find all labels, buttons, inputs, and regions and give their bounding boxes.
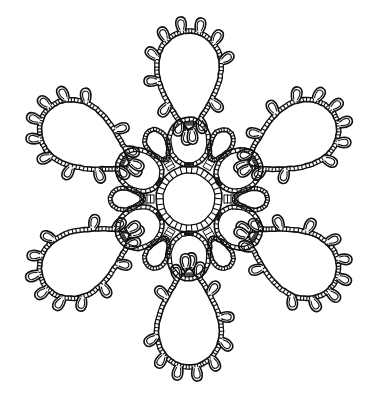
paper-background: [0, 0, 377, 393]
picot-loop: [246, 127, 261, 139]
picot-loop: [80, 88, 92, 103]
artwork-canvas: Tatted Lace Doily Black and white line d…: [0, 0, 377, 393]
picot-loop: [175, 16, 187, 31]
picot-loop-outer: [80, 88, 92, 103]
picot-loop: [27, 250, 41, 261]
picot-loop: [287, 295, 299, 310]
picot-loop-outer: [287, 295, 299, 310]
picot-loop-outer: [191, 367, 203, 382]
picot-loop: [191, 367, 203, 382]
picot-loop: [144, 76, 158, 86]
picot-loop: [117, 259, 132, 271]
picot-loop-outer: [187, 130, 198, 145]
picot-loop-outer: [117, 259, 132, 271]
picot-loop-outer: [180, 254, 191, 269]
picot-loop: [220, 312, 234, 322]
picot-loop-outer: [26, 133, 41, 144]
picot-loop: [180, 254, 191, 269]
picot-loop-outer: [338, 254, 353, 265]
picot-loop-outer: [175, 16, 187, 31]
doily-illustration: Tatted Lace Doily Black and white line d…: [0, 0, 377, 393]
picot-loop: [337, 137, 351, 148]
picot-loop: [187, 130, 198, 145]
picot-loop: [338, 254, 353, 265]
picot-loop-outer: [246, 127, 261, 139]
picot-loop: [26, 133, 41, 144]
